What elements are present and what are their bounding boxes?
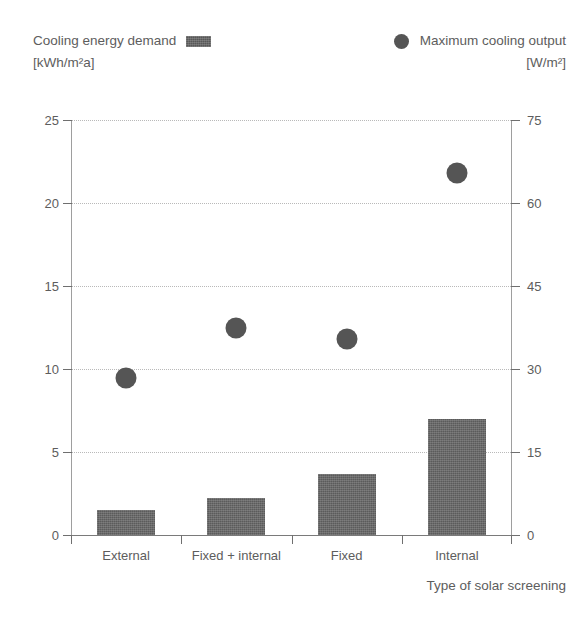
left-axis-tick	[63, 203, 72, 204]
bar	[97, 510, 155, 535]
x-axis-category-label: External	[102, 548, 150, 563]
legend-entry-maximum-cooling-output: Maximum cooling output [W/m²]	[316, 30, 566, 74]
right-axis-tick-label: 45	[527, 280, 567, 293]
x-axis-tick	[292, 535, 293, 544]
x-axis-category-label: Fixed + internal	[192, 548, 281, 563]
right-axis-tick-label: 30	[527, 363, 567, 376]
right-axis-tick-label: 60	[527, 197, 567, 210]
gridline	[72, 203, 511, 204]
gridline	[72, 120, 511, 121]
x-axis-tick	[511, 535, 512, 544]
left-axis-tick-label: 5	[19, 446, 59, 459]
bar-swatch-icon	[186, 36, 211, 47]
x-axis-category-label: Fixed	[331, 548, 363, 563]
right-axis-tick	[511, 535, 520, 536]
x-axis-category-labels: ExternalFixed + internalFixedInternal	[71, 548, 512, 570]
bar	[428, 419, 486, 535]
data-point	[336, 328, 357, 349]
gridline	[72, 369, 511, 370]
left-axis-tick-label: 20	[19, 197, 59, 210]
left-axis-line	[71, 120, 72, 535]
left-axis-tick-label: 10	[19, 363, 59, 376]
legend-unit-maximum-cooling-output: [W/m²]	[316, 52, 566, 74]
gridline	[72, 286, 511, 287]
right-axis-tick	[511, 286, 520, 287]
chart-legend: Cooling energy demand [kWh/m²a] Maximum …	[0, 0, 582, 100]
left-axis-tick-label: 15	[19, 280, 59, 293]
data-point	[116, 368, 137, 389]
x-axis-title: Type of solar screening	[426, 578, 566, 593]
legend-label-maximum-cooling-output: Maximum cooling output	[420, 30, 566, 52]
x-axis-category-label: Internal	[435, 548, 478, 563]
left-axis-tick	[63, 369, 72, 370]
dot-swatch-icon	[394, 34, 409, 49]
data-point	[446, 162, 467, 183]
legend-entry-cooling-energy-demand: Cooling energy demand [kWh/m²a]	[33, 30, 268, 74]
right-axis-tick-label: 0	[527, 529, 567, 542]
bar	[207, 498, 265, 535]
left-axis-tick	[63, 286, 72, 287]
right-axis-tick	[511, 120, 520, 121]
right-axis-tick	[511, 452, 520, 453]
right-axis-tick-label: 75	[527, 114, 567, 127]
right-axis-tick	[511, 203, 520, 204]
bar	[318, 474, 376, 535]
legend-label-cooling-energy-demand: Cooling energy demand	[33, 30, 176, 52]
x-axis-tick	[402, 535, 403, 544]
chart-figure: Cooling energy demand [kWh/m²a] Maximum …	[0, 0, 582, 620]
left-axis-tick	[63, 120, 72, 121]
left-axis-tick-label: 0	[19, 529, 59, 542]
x-axis-tick	[71, 535, 72, 544]
data-point	[226, 317, 247, 338]
left-axis-tick-label: 25	[19, 114, 59, 127]
legend-unit-cooling-energy-demand: [kWh/m²a]	[33, 52, 268, 74]
plot-area: 051015202501530456075	[71, 120, 512, 535]
x-axis-tick	[181, 535, 182, 544]
right-axis-line	[511, 120, 512, 535]
right-axis-tick	[511, 369, 520, 370]
left-axis-tick	[63, 452, 72, 453]
right-axis-tick-label: 15	[527, 446, 567, 459]
